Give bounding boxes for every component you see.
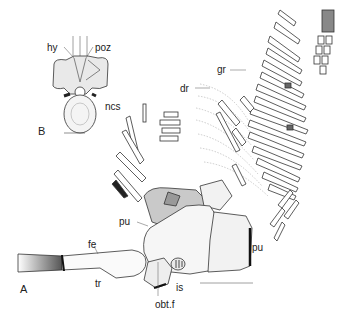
- gastral-ribs: [248, 10, 308, 200]
- pelvis: [144, 180, 252, 288]
- label-dr: dr: [180, 84, 189, 94]
- femur: [18, 250, 146, 278]
- label-gr: gr: [217, 65, 226, 75]
- panel-label-b: B: [38, 126, 45, 137]
- panel-label-a: A: [20, 284, 27, 295]
- label-is: is: [176, 283, 183, 293]
- tail-vertebrae: [314, 10, 334, 74]
- label-obt-f: obt.f: [155, 300, 174, 310]
- label-ncs: ncs: [105, 102, 121, 112]
- label-fe: fe: [88, 240, 96, 250]
- label-pu-right: pu: [252, 243, 263, 253]
- label-hy: hy: [47, 43, 58, 53]
- neural-spines: [112, 104, 180, 202]
- label-pu-left: pu: [119, 217, 130, 227]
- label-tr: tr: [95, 279, 101, 289]
- label-poz: poz: [95, 43, 111, 53]
